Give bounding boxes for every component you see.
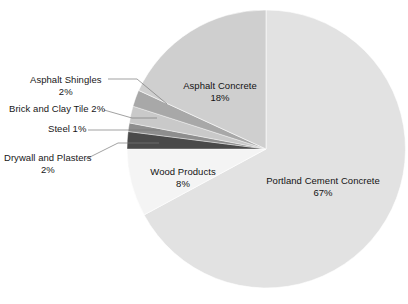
pie-slices (127, 10, 405, 288)
label-text-drywall-and-plasters: Drywall and Plasters (4, 152, 92, 164)
label-value-portland-cement-concrete: 67% (258, 187, 388, 199)
label-value-asphalt-shingles: 2% (30, 86, 102, 98)
callout-label-drywall-and-plasters: Drywall and Plasters 2% (4, 152, 92, 175)
label-text-steel: Steel 1% (48, 123, 86, 134)
label-text-asphalt-concrete: Asphalt Concrete (172, 80, 268, 92)
label-text-brick-and-clay-tile: Brick and Clay Tile 2% (9, 103, 105, 114)
label-text-asphalt-shingles: Asphalt Shingles (30, 74, 102, 86)
callout-label-steel: Steel 1% (48, 123, 86, 135)
label-text-portland-cement-concrete: Portland Cement Concrete (258, 175, 388, 187)
callout-label-brick-and-clay-tile: Brick and Clay Tile 2% (9, 103, 105, 115)
label-value-drywall-and-plasters: 2% (4, 164, 92, 176)
pie-chart: Asphalt Shingles 2% Brick and Clay Tile … (0, 0, 408, 304)
label-value-asphalt-concrete: 18% (172, 92, 268, 104)
slice-label-wood-products: Wood Products 8% (140, 166, 226, 189)
slice-label-asphalt-concrete: Asphalt Concrete 18% (172, 80, 268, 103)
label-value-wood-products: 8% (140, 178, 226, 190)
label-text-wood-products: Wood Products (140, 166, 226, 178)
callout-label-asphalt-shingles: Asphalt Shingles 2% (30, 74, 102, 97)
slice-label-portland-cement-concrete: Portland Cement Concrete 67% (258, 175, 388, 198)
